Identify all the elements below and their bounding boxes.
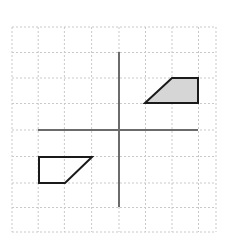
- unshaded-trapezoid: [39, 157, 92, 183]
- coordinate-plane-figure: [0, 0, 232, 238]
- figure-root: [0, 0, 232, 238]
- shaded-trapezoid: [145, 78, 198, 103]
